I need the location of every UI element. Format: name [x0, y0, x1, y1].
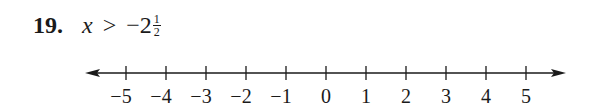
tick-label: −2: [230, 85, 251, 107]
tick-label: −1: [270, 85, 291, 107]
tick-label: −3: [190, 85, 211, 107]
number-line: −5−4−3−2−1012345: [0, 0, 590, 107]
ticks: −5−4−3−2−1012345: [110, 66, 531, 107]
tick-label: −5: [110, 85, 131, 107]
tick-label: 4: [481, 85, 491, 107]
tick-label: 2: [401, 85, 411, 107]
tick-label: 0: [321, 85, 331, 107]
tick-label: 1: [361, 85, 371, 107]
tick-label: −4: [150, 85, 171, 107]
tick-label: 3: [441, 85, 451, 107]
tick-label: 5: [521, 85, 531, 107]
